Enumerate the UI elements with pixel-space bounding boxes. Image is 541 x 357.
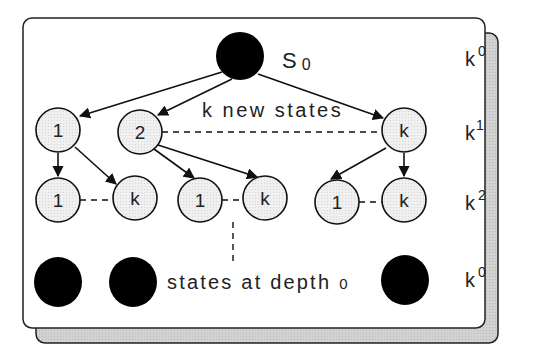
node-label: 1 [53,120,64,141]
node-label: k [399,120,409,141]
node-label: k [260,188,270,209]
terminal-node [109,257,157,307]
terminal-node [381,255,429,305]
node-label: k [130,188,140,209]
states-at-depth-annotation: states at depth0 [167,271,350,293]
terminal-node [34,257,82,307]
node-label: 1 [53,190,64,211]
node-label: 1 [332,192,343,213]
root-node [216,32,264,80]
search-tree-diagram: S0 k new states 1 2 k 1 k 1 k 1 k states… [0,0,541,357]
node-label: k [399,190,409,211]
node-label: 2 [135,122,146,143]
node-label: 1 [195,190,206,211]
k-new-states-annotation: k new states [202,99,343,121]
